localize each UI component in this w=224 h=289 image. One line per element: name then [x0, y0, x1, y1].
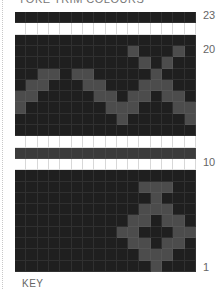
chart-cell [26, 136, 37, 147]
chart-cell [128, 193, 139, 204]
chart-cell [15, 261, 26, 272]
chart-cell [83, 80, 94, 91]
chart-cell [117, 125, 128, 136]
chart-cell [94, 69, 105, 80]
chart-cell [139, 249, 150, 260]
chart-cell [117, 182, 128, 193]
chart-cell [38, 12, 49, 23]
chart-cell [94, 159, 105, 170]
chart-cell [117, 193, 128, 204]
chart-cell [173, 159, 184, 170]
chart-cell [106, 35, 117, 46]
chart-cell [117, 91, 128, 102]
chart-cell [151, 23, 162, 34]
chart-cell [106, 102, 117, 113]
chart-cell [139, 159, 150, 170]
chart-cell [151, 182, 162, 193]
chart-cell [106, 91, 117, 102]
chart-cell [128, 12, 139, 23]
chart-cell [38, 69, 49, 80]
chart-cell [185, 193, 196, 204]
chart-cell [139, 182, 150, 193]
chart-cell [162, 148, 173, 159]
chart-cell [173, 35, 184, 46]
chart-cell [49, 238, 60, 249]
chart-cell [26, 125, 37, 136]
chart-cell [162, 102, 173, 113]
chart-cell [94, 170, 105, 181]
chart-cell [151, 102, 162, 113]
chart-cell [162, 170, 173, 181]
chart-cell [49, 182, 60, 193]
chart-cell [128, 204, 139, 215]
chart-cell [72, 215, 83, 226]
chart-cell [38, 182, 49, 193]
chart-cell [106, 227, 117, 238]
chart-cell [185, 46, 196, 57]
chart-cell [94, 193, 105, 204]
chart-cell [162, 69, 173, 80]
chart-cell [173, 12, 184, 23]
chart-cell [94, 261, 105, 272]
chart-cell [139, 170, 150, 181]
chart-cell [49, 69, 60, 80]
chart-cell [15, 148, 26, 159]
chart-cell [15, 125, 26, 136]
chart-cell [128, 35, 139, 46]
chart-cell [49, 91, 60, 102]
chart-cell [49, 35, 60, 46]
chart-cell [26, 159, 37, 170]
chart-cell [151, 227, 162, 238]
chart-cell [139, 69, 150, 80]
chart-title: YOKE TRIM COLOURS [18, 0, 144, 5]
chart-cell [151, 35, 162, 46]
chart-cell [128, 46, 139, 57]
chart-cell [72, 227, 83, 238]
chart-cell [26, 91, 37, 102]
chart-cell [162, 80, 173, 91]
chart-cell [15, 227, 26, 238]
chart-cell [83, 125, 94, 136]
chart-cell [117, 69, 128, 80]
chart-cell [38, 136, 49, 147]
chart-cell [185, 182, 196, 193]
chart-cell [60, 12, 71, 23]
chart-cell [60, 35, 71, 46]
chart-cell [72, 170, 83, 181]
chart-cell [94, 182, 105, 193]
chart-cell [83, 114, 94, 125]
chart-cell [106, 69, 117, 80]
chart-cell [15, 12, 26, 23]
chart-cell [94, 80, 105, 91]
chart-cell [38, 114, 49, 125]
chart-cell [38, 238, 49, 249]
chart-cell [151, 249, 162, 260]
chart-cell [83, 204, 94, 215]
chart-cell [26, 261, 37, 272]
chart-cell [94, 249, 105, 260]
chart-cell [38, 80, 49, 91]
chart-cell [83, 249, 94, 260]
chart-cell [185, 69, 196, 80]
chart-cell [83, 136, 94, 147]
chart-cell [185, 249, 196, 260]
chart-cell [173, 227, 184, 238]
chart-cell [72, 148, 83, 159]
chart-cell [151, 193, 162, 204]
chart-cell [128, 227, 139, 238]
chart-cell [72, 249, 83, 260]
chart-cell [72, 91, 83, 102]
chart-cell [60, 170, 71, 181]
chart-cell [60, 80, 71, 91]
chart-cell [185, 261, 196, 272]
chart-cell [94, 91, 105, 102]
chart-cell [60, 215, 71, 226]
chart-cell [173, 125, 184, 136]
chart-cell [38, 193, 49, 204]
chart-cell [162, 46, 173, 57]
chart-cell [106, 12, 117, 23]
chart-cell [139, 136, 150, 147]
row-label-20: 20 [203, 44, 215, 55]
chart-cell [173, 69, 184, 80]
chart-cell [162, 114, 173, 125]
